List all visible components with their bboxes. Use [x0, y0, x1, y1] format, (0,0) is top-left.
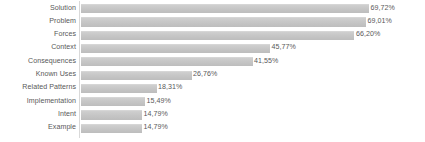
bar-fill [81, 84, 157, 93]
bar-fill [81, 124, 142, 133]
bar [81, 44, 270, 52]
bar-fill [81, 4, 369, 13]
value-label: 26,76% [193, 68, 217, 81]
bar-fill [81, 110, 142, 119]
bar-row: Solution69,72% [0, 2, 425, 15]
bar-fill [81, 44, 270, 53]
bar-chart: Solution69,72%Problem69,01%Forces66,20%C… [0, 0, 425, 142]
category-label: Related Patterns [22, 81, 76, 94]
bar [81, 97, 145, 105]
value-label: 69,72% [370, 2, 394, 15]
bar-row: Context45,77% [0, 41, 425, 54]
category-label: Intent [58, 108, 76, 121]
bar-row: Implementation15,49% [0, 95, 425, 108]
bar-row: Related Patterns18,31% [0, 81, 425, 94]
bar [81, 31, 354, 39]
value-label: 41,55% [254, 55, 278, 68]
bar-fill [81, 97, 145, 106]
bar-row: Consequences41,55% [0, 55, 425, 68]
bar [81, 71, 192, 79]
value-label: 15,49% [146, 95, 170, 108]
category-label: Solution [50, 2, 76, 15]
bar-row: Intent14,79% [0, 108, 425, 121]
bar [81, 4, 369, 12]
value-label: 14,79% [144, 108, 168, 121]
category-label: Consequences [28, 55, 76, 68]
category-label: Context [51, 41, 76, 54]
plot-area: Solution69,72%Problem69,01%Forces66,20%C… [0, 0, 425, 142]
category-label: Forces [54, 28, 76, 41]
bar-fill [81, 71, 192, 80]
bar [81, 57, 253, 65]
bar [81, 17, 366, 25]
value-label: 14,79% [144, 121, 168, 134]
bar-row: Forces66,20% [0, 28, 425, 41]
category-label: Problem [49, 15, 76, 28]
bar [81, 110, 142, 118]
category-label: Known Uses [36, 68, 76, 81]
bar-row: Known Uses26,76% [0, 68, 425, 81]
bar-row: Example14,79% [0, 121, 425, 134]
category-label: Implementation [27, 95, 76, 108]
bar [81, 124, 142, 132]
bar-fill [81, 31, 354, 40]
bar-fill [81, 17, 366, 26]
value-label: 69,01% [368, 15, 392, 28]
value-label: 18,31% [158, 81, 182, 94]
bar [81, 84, 157, 92]
bar-fill [81, 57, 253, 66]
value-label: 66,20% [356, 28, 380, 41]
category-label: Example [48, 121, 76, 134]
bar-row: Problem69,01% [0, 15, 425, 28]
value-label: 45,77% [272, 41, 296, 54]
